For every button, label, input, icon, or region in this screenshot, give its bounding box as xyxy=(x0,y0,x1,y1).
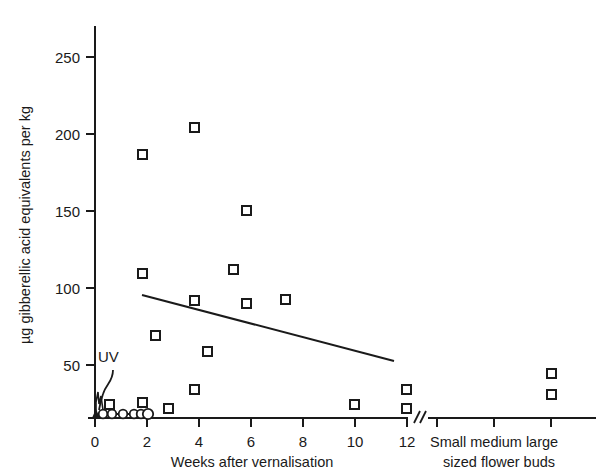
secondary-axis-label-line1: Small medium large xyxy=(430,434,558,450)
x-tick-label-6: 6 xyxy=(247,433,255,450)
trend-line xyxy=(142,295,394,361)
data-point xyxy=(190,385,199,394)
data-point xyxy=(190,123,199,132)
data-point xyxy=(138,269,147,278)
scatter-plot: 250 200 150 100 50 µg gibberellic acid e… xyxy=(0,0,604,473)
y-tick-label-50: 50 xyxy=(63,357,80,374)
data-point xyxy=(105,400,114,409)
y-axis-title: µg gibberellic acid equivalents per kg xyxy=(17,106,33,344)
x-axis-secondary xyxy=(428,418,596,427)
axis-break-icon xyxy=(414,411,426,423)
data-marker-group xyxy=(105,123,411,413)
y-axis-ticks xyxy=(86,57,95,365)
x-tick-label-4: 4 xyxy=(195,433,203,450)
y-tick-label-150: 150 xyxy=(55,203,80,220)
data-point xyxy=(242,299,251,308)
data-point xyxy=(138,150,147,159)
y-axis: 250 200 150 100 50 xyxy=(55,26,95,418)
data-point xyxy=(281,295,290,304)
data-point xyxy=(547,390,556,399)
data-point xyxy=(350,400,359,409)
data-point xyxy=(203,347,212,356)
y-tick-label-250: 250 xyxy=(55,49,80,66)
x-tick-label-10: 10 xyxy=(347,433,364,450)
x-tick-label-8: 8 xyxy=(299,433,307,450)
x-axis-primary: 0 2 4 6 8 10 12 xyxy=(88,418,415,450)
data-point xyxy=(402,385,411,394)
x-axis-title: Weeks after vernalisation xyxy=(171,454,334,470)
y-tick-label-100: 100 xyxy=(55,280,80,297)
x-tick-label-2: 2 xyxy=(143,433,151,450)
secondary-axis-label-line2: sized flower buds xyxy=(443,454,555,470)
data-point xyxy=(164,404,173,413)
x-axis-ticks xyxy=(95,418,407,427)
data-point xyxy=(151,331,160,340)
data-point xyxy=(190,296,199,305)
data-point xyxy=(242,206,251,215)
y-tick-label-200: 200 xyxy=(55,126,80,143)
data-point xyxy=(138,398,147,407)
data-point xyxy=(547,369,556,378)
x-tick-label-12: 12 xyxy=(399,433,416,450)
x-tick-label-0: 0 xyxy=(91,433,99,450)
flower-bud-marker-group xyxy=(547,369,556,399)
chart-figure: 250 200 150 100 50 µg gibberellic acid e… xyxy=(0,0,604,473)
data-point xyxy=(229,265,238,274)
uv-annotation-label: UV xyxy=(98,348,119,365)
data-point xyxy=(402,404,411,413)
